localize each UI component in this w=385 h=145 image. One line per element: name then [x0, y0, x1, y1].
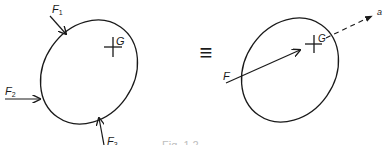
- resultant-force-arrow: [226, 50, 300, 83]
- force-f3-arrow: [99, 118, 104, 145]
- left-body-outline: [21, 1, 158, 143]
- force-f1-label: F1: [52, 3, 63, 16]
- force-f3-label: F3: [107, 135, 118, 145]
- left-centroid-label: G: [116, 35, 125, 47]
- equivalence-symbol: ≡: [200, 40, 213, 65]
- right-body: G F a: [222, 0, 382, 141]
- axis-label: a: [377, 7, 382, 17]
- right-body-outline: [222, 0, 359, 141]
- figure-caption: Fig. 1.2: [162, 139, 199, 145]
- resultant-force-label: F: [223, 70, 231, 82]
- equivalent-force-diagram: G F1 F2 F3 ≡ G F a Fig. 1.2: [0, 0, 385, 145]
- line-of-action-dashed: [326, 16, 372, 38]
- force-f2-label: F2: [5, 85, 16, 98]
- force-f1-arrow: [50, 16, 66, 34]
- right-centroid-label: G: [318, 33, 326, 44]
- left-body: G F1 F2 F3: [5, 1, 157, 145]
